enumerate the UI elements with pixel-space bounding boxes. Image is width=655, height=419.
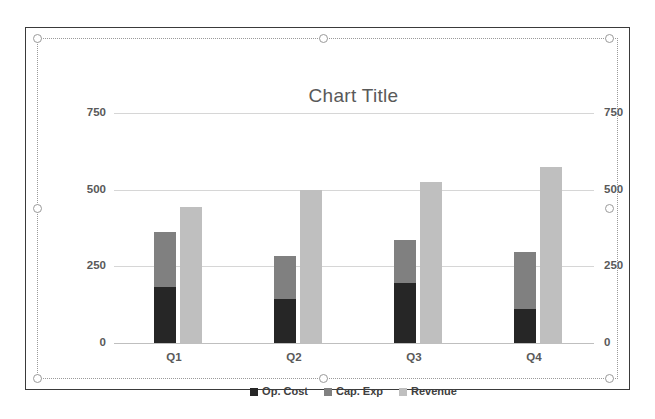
legend-item-op-cost[interactable]: Op. Cost bbox=[250, 386, 308, 397]
chart-legend[interactable]: Op. CostCap. ExpRevenue bbox=[66, 386, 641, 397]
legend-item-cap-exp[interactable]: Cap. Exp bbox=[324, 386, 383, 397]
resize-handle-middle-right[interactable] bbox=[605, 204, 614, 213]
resize-handle-bottom-left[interactable] bbox=[33, 374, 42, 383]
resize-handle-bottom-middle[interactable] bbox=[319, 374, 328, 383]
resize-handle-top-right[interactable] bbox=[605, 34, 614, 43]
legend-item-revenue[interactable]: Revenue bbox=[399, 386, 457, 397]
legend-swatch-icon bbox=[250, 388, 258, 396]
resize-handle-bottom-right[interactable] bbox=[605, 374, 614, 383]
legend-label: Revenue bbox=[411, 386, 457, 397]
resize-handle-top-middle[interactable] bbox=[319, 34, 328, 43]
resize-handle-top-left[interactable] bbox=[33, 34, 42, 43]
legend-label: Cap. Exp bbox=[336, 386, 383, 397]
selection-outline bbox=[37, 38, 618, 379]
legend-swatch-icon bbox=[324, 388, 332, 396]
slide-canvas: Chart Title 00250250500500750750Q1Q2Q3Q4… bbox=[0, 0, 655, 419]
resize-handle-middle-left[interactable] bbox=[33, 204, 42, 213]
legend-label: Op. Cost bbox=[262, 386, 308, 397]
legend-swatch-icon bbox=[399, 388, 407, 396]
